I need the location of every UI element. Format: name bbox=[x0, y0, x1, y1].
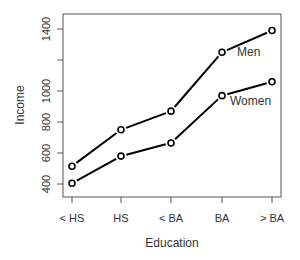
line-segment bbox=[76, 133, 116, 163]
y-tick-label: 800 bbox=[40, 113, 52, 131]
data-point-marker bbox=[168, 140, 174, 146]
data-point-marker bbox=[118, 127, 124, 133]
x-tick-label: HS bbox=[113, 212, 128, 224]
income-by-education-chart: 40060080010001400 < HSHS< BABA> BA MenWo… bbox=[0, 0, 300, 260]
x-axis-title: Education bbox=[145, 236, 198, 250]
data-point-marker bbox=[269, 79, 275, 85]
line-segment bbox=[227, 83, 266, 94]
y-tick-label: 600 bbox=[40, 144, 52, 162]
series-label-men: Men bbox=[237, 45, 260, 59]
data-point-marker bbox=[118, 153, 124, 159]
line-segment bbox=[126, 144, 165, 154]
data-point-marker bbox=[219, 49, 225, 55]
y-axis: 40060080010001400 bbox=[40, 17, 63, 193]
y-tick-label: 1400 bbox=[40, 17, 52, 41]
data-point-marker bbox=[69, 180, 75, 186]
y-tick-label: 400 bbox=[40, 175, 52, 193]
data-point-marker bbox=[69, 163, 75, 169]
x-tick-label: < BA bbox=[159, 212, 184, 224]
line-segment bbox=[126, 113, 166, 128]
data-point-marker bbox=[168, 108, 174, 114]
data-point-marker bbox=[219, 93, 225, 99]
x-axis: < HSHS< BABA> BA bbox=[60, 197, 285, 224]
series-label-women: Women bbox=[230, 94, 271, 108]
line-segment bbox=[77, 159, 116, 181]
x-tick-label: BA bbox=[215, 212, 230, 224]
y-tick-label: 1000 bbox=[40, 79, 52, 103]
x-tick-label: < HS bbox=[60, 212, 85, 224]
series-labels: MenWomen bbox=[230, 45, 271, 108]
x-tick-label: > BA bbox=[260, 212, 285, 224]
y-axis-title: Income bbox=[13, 85, 27, 125]
line-segment bbox=[175, 56, 219, 107]
data-point-marker bbox=[269, 28, 275, 34]
line-segment bbox=[175, 99, 218, 139]
